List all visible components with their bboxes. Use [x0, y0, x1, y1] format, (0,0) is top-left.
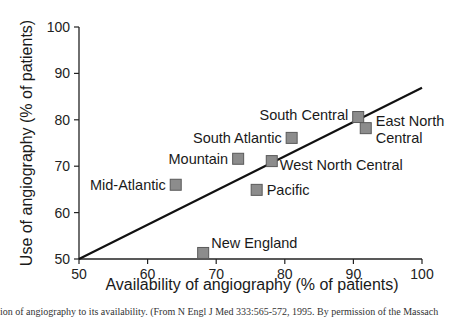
x-tick-label: 50: [71, 266, 87, 282]
point-label: Central: [376, 130, 423, 146]
data-point-marker: [353, 112, 364, 123]
point-label: Mid-Atlantic: [90, 177, 166, 193]
point-label: East North: [376, 113, 445, 129]
figure-caption: ion of angiography to its availability. …: [0, 306, 465, 317]
data-point-marker: [170, 179, 181, 190]
y-axis-title: Use of angiography (% of patients): [18, 20, 35, 266]
scatter-chart: 50607080901005060708090100 Mid-AtlanticM…: [0, 0, 465, 305]
data-point-marker: [251, 184, 262, 195]
x-tick-label: 100: [410, 266, 434, 282]
y-tick-label: 80: [54, 112, 70, 128]
data-point-marker: [198, 247, 209, 258]
point-label: South Atlantic: [193, 130, 282, 146]
data-point-marker: [233, 153, 244, 164]
data-point-marker: [360, 123, 371, 134]
data-point-marker: [266, 156, 277, 167]
y-tick-label: 60: [54, 205, 70, 221]
point-label: West North Central: [280, 157, 403, 173]
regression-line: [79, 88, 422, 259]
y-tick-label: 90: [54, 65, 70, 81]
trend-line: [79, 88, 422, 259]
data-point-marker: [286, 132, 297, 143]
y-tick-label: 100: [47, 19, 71, 35]
point-label: New England: [211, 235, 297, 251]
x-axis-title: Availability of angiography (% of patien…: [105, 276, 398, 293]
point-label: Pacific: [267, 182, 310, 198]
data-points: Mid-AtlanticMountainSouth AtlanticWest N…: [90, 107, 444, 258]
point-label: South Central: [260, 107, 349, 123]
y-tick-label: 50: [54, 251, 70, 267]
y-tick-label: 70: [54, 158, 70, 174]
point-label: Mountain: [168, 151, 228, 167]
